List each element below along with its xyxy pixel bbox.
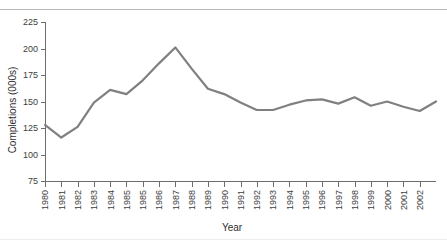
bottom-divider: [0, 239, 447, 240]
x-tick-label: 1988: [187, 190, 197, 210]
x-tick-label: 1985: [122, 190, 132, 210]
x-axis-title: Year: [222, 222, 243, 233]
x-tick-label: 1980: [40, 190, 50, 210]
x-tick-label: 1995: [301, 190, 311, 210]
x-tick-label: 1981: [57, 190, 67, 210]
data-series-group: [45, 47, 436, 137]
x-tick-label: 1983: [89, 190, 99, 210]
x-tick-label: 1987: [171, 190, 181, 210]
series-line-completions: [45, 47, 436, 137]
y-tick-label: 200: [23, 44, 38, 54]
x-tick-label: 1999: [366, 190, 376, 210]
x-tick-label: 1993: [268, 190, 278, 210]
y-tick-label: 75: [28, 176, 38, 186]
x-tick-label: 2001: [399, 190, 409, 210]
x-tick-label: 1998: [350, 190, 360, 210]
y-tick-label: 100: [23, 150, 38, 160]
x-tick-label: 1982: [73, 190, 83, 210]
x-tick-label: 1984: [106, 190, 116, 210]
x-tick-label: 1986: [154, 190, 164, 210]
y-axis-title: Completions (000s): [7, 67, 18, 154]
y-tick-label: 150: [23, 97, 38, 107]
x-tick-label: 1997: [334, 190, 344, 210]
y-tick-label: 175: [23, 70, 38, 80]
x-tick-label: 1994: [285, 190, 295, 210]
x-tick-label: 1991: [236, 190, 246, 210]
x-tick-label: 1989: [203, 190, 213, 210]
chart-canvas: 75100125150175200225 1980198119821983198…: [0, 10, 447, 239]
y-tick-label: 125: [23, 123, 38, 133]
x-tick-label: 1990: [220, 190, 230, 210]
x-tick-label: 1985: [138, 190, 148, 210]
x-tick-label: 1996: [317, 190, 327, 210]
x-tick-label: 1992: [252, 190, 262, 210]
x-tick-label: 2002: [415, 190, 425, 210]
y-axis: 75100125150175200225: [23, 17, 46, 186]
line-chart-figure: 75100125150175200225 1980198119821983198…: [0, 10, 447, 239]
x-tick-label: 2000: [383, 190, 393, 210]
y-tick-label: 225: [23, 17, 38, 27]
x-axis: 1980198119821983198419851985198619871988…: [40, 182, 436, 211]
chart-page: 75100125150175200225 1980198119821983198…: [0, 0, 447, 244]
